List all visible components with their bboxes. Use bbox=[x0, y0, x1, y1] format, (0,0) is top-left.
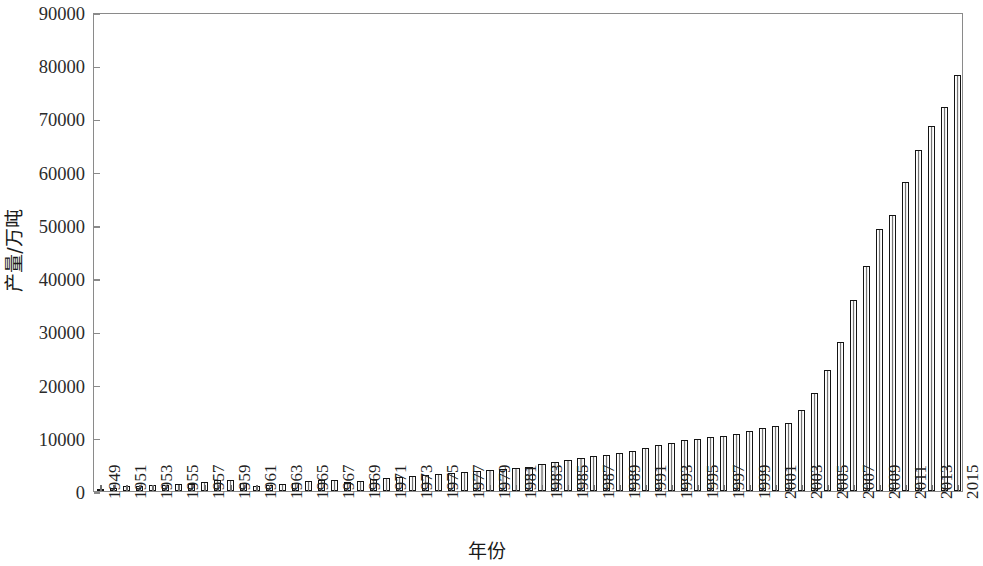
bar bbox=[863, 266, 870, 491]
x-axis-tick-mark bbox=[230, 485, 231, 491]
x-axis-tick-label: 1981 bbox=[521, 464, 541, 499]
y-axis-tick-label: 10000 bbox=[39, 429, 85, 450]
x-axis-tick-label: 1987 bbox=[599, 464, 619, 499]
x-axis-tick-mark bbox=[802, 485, 803, 491]
x-axis-tick-label: 1995 bbox=[703, 464, 723, 499]
bar bbox=[915, 150, 922, 491]
x-axis-tick-label: 2011 bbox=[911, 465, 931, 499]
x-axis-tick-label: 2013 bbox=[937, 464, 957, 499]
x-axis-tick-label: 1985 bbox=[573, 464, 593, 499]
x-axis-tick-label: 1949 bbox=[105, 464, 125, 499]
x-axis-tick-label: 1979 bbox=[495, 464, 515, 499]
bar bbox=[902, 182, 909, 491]
x-axis-tick-mark bbox=[672, 485, 673, 491]
x-axis-tick-mark bbox=[854, 485, 855, 491]
x-axis-tick-label: 2003 bbox=[807, 464, 827, 499]
x-axis-tick-mark bbox=[828, 485, 829, 491]
x-axis-tick-mark bbox=[100, 485, 101, 491]
x-axis-tick-mark bbox=[542, 485, 543, 491]
x-axis-tick-label: 2005 bbox=[833, 464, 853, 499]
y-axis-tick-mark bbox=[94, 492, 100, 493]
x-axis-tick-label: 1973 bbox=[417, 464, 437, 499]
y-axis-tick-mark bbox=[94, 120, 100, 121]
x-axis-tick-mark bbox=[568, 485, 569, 491]
x-axis-tick-label: 1951 bbox=[131, 464, 151, 499]
y-axis-tick-mark bbox=[94, 13, 100, 14]
plot-frame: 0100002000030000400005000060000700008000… bbox=[93, 13, 963, 492]
y-axis-tick-label: 80000 bbox=[39, 57, 85, 78]
x-axis-tick-label: 1969 bbox=[365, 464, 385, 499]
y-axis-tick-label: 90000 bbox=[39, 4, 85, 25]
x-axis-tick-label: 1955 bbox=[183, 464, 203, 499]
x-axis-tick-label: 1977 bbox=[469, 464, 489, 499]
x-axis-tick-label: 1967 bbox=[339, 464, 359, 499]
bar bbox=[954, 75, 961, 491]
x-axis-tick-label: 1999 bbox=[755, 464, 775, 499]
y-axis-title: 产量/万吨 bbox=[0, 0, 24, 500]
y-axis-tick-label: 40000 bbox=[39, 270, 85, 291]
bar bbox=[850, 300, 857, 491]
x-axis-tick-label: 1965 bbox=[313, 464, 333, 499]
bar bbox=[928, 126, 935, 491]
x-axis-tick-mark bbox=[308, 485, 309, 491]
y-axis-tick-label: 30000 bbox=[39, 323, 85, 344]
y-axis-tick-mark bbox=[94, 439, 100, 440]
x-axis-tick-mark bbox=[438, 485, 439, 491]
x-axis-tick-mark bbox=[724, 485, 725, 491]
x-axis-tick-label: 1997 bbox=[729, 464, 749, 499]
y-axis-tick-mark bbox=[94, 333, 100, 334]
x-axis-tick-label: 1989 bbox=[625, 464, 645, 499]
x-axis-tick-label: 1993 bbox=[677, 464, 697, 499]
x-axis-tick-mark bbox=[152, 485, 153, 491]
x-axis-tick-mark bbox=[282, 485, 283, 491]
x-axis-tick-mark bbox=[750, 485, 751, 491]
bar bbox=[876, 229, 883, 491]
x-axis-tick-mark bbox=[594, 485, 595, 491]
x-axis-tick-label: 1991 bbox=[651, 464, 671, 499]
x-axis-tick-mark bbox=[204, 485, 205, 491]
x-axis-tick-label: 2007 bbox=[859, 464, 879, 499]
y-axis-tick-label: 0 bbox=[76, 483, 85, 504]
y-axis-tick-label: 20000 bbox=[39, 376, 85, 397]
y-axis-tick-label: 70000 bbox=[39, 110, 85, 131]
x-axis-tick-mark bbox=[464, 485, 465, 491]
x-axis-tick-mark bbox=[646, 485, 647, 491]
x-axis-tick-label: 2009 bbox=[885, 464, 905, 499]
x-axis-tick-mark bbox=[776, 485, 777, 491]
x-axis-tick-mark bbox=[126, 485, 127, 491]
x-axis-tick-mark bbox=[620, 485, 621, 491]
x-axis-tick-mark bbox=[412, 485, 413, 491]
bar bbox=[889, 215, 896, 491]
y-axis-tick-mark bbox=[94, 173, 100, 174]
bar bbox=[941, 107, 948, 491]
x-axis-tick-label: 1959 bbox=[235, 464, 255, 499]
y-axis-title-text: 产量/万吨 bbox=[0, 209, 26, 291]
x-axis-tick-mark bbox=[698, 485, 699, 491]
x-axis-tick-label: 2015 bbox=[963, 464, 983, 499]
x-axis-tick-mark bbox=[178, 485, 179, 491]
y-axis-tick-mark bbox=[94, 279, 100, 280]
x-axis-tick-mark bbox=[880, 485, 881, 491]
x-axis-title-text: 年份 bbox=[468, 540, 506, 562]
x-axis-tick-label: 1971 bbox=[391, 464, 411, 499]
x-axis-tick-label: 1957 bbox=[209, 464, 229, 499]
y-axis-tick-label: 60000 bbox=[39, 163, 85, 184]
x-axis-tick-mark bbox=[360, 485, 361, 491]
y-axis-tick-label: 50000 bbox=[39, 216, 85, 237]
y-axis-tick-mark bbox=[94, 226, 100, 227]
x-axis-tick-label: 1961 bbox=[261, 464, 281, 499]
x-axis-tick-label: 1975 bbox=[443, 464, 463, 499]
y-axis-tick-mark bbox=[94, 386, 100, 387]
x-axis-tick-mark bbox=[906, 485, 907, 491]
x-axis-tick-label: 1963 bbox=[287, 464, 307, 499]
x-axis-tick-mark bbox=[958, 485, 959, 491]
y-axis-tick-mark bbox=[94, 67, 100, 68]
x-axis-tick-mark bbox=[516, 485, 517, 491]
x-axis-tick-label: 2001 bbox=[781, 464, 801, 499]
x-axis-tick-label: 1983 bbox=[547, 464, 567, 499]
x-axis-tick-label: 1953 bbox=[157, 464, 177, 499]
x-axis-tick-mark bbox=[386, 485, 387, 491]
x-axis-tick-mark bbox=[932, 485, 933, 491]
plot-area: 0100002000030000400005000060000700008000… bbox=[94, 14, 962, 491]
x-axis-tick-mark bbox=[490, 485, 491, 491]
